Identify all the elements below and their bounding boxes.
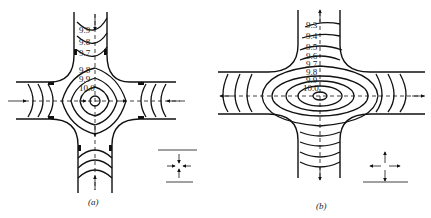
inflow-arrows-a: [8, 14, 185, 190]
contour-label: 10.0: [79, 83, 95, 93]
contours-right-a: [138, 82, 166, 119]
contour-label: 9.9: [79, 25, 91, 35]
caption-a: (a): [88, 197, 99, 207]
legend-outflow-b: [363, 152, 408, 182]
panel-a: 9.9 9.8 9.7 9.8 9.9 10.0 (a): [8, 12, 197, 207]
contours-left-a: [28, 82, 54, 119]
legend-inflow-a: [158, 150, 197, 182]
contour-label: 9.4: [306, 31, 318, 41]
contour-label: 10.0: [303, 83, 319, 93]
panel-b: 9.3 9.4 9.5 9.6 9.7 9.8 9.9 10.0 (b): [218, 10, 425, 211]
channel-outline-a: [16, 12, 176, 193]
caption-b: (b): [316, 201, 327, 211]
contour-label: 9.8: [79, 37, 91, 47]
contour-label: 9.3: [306, 20, 318, 30]
contour-label: 9.7: [79, 48, 91, 58]
